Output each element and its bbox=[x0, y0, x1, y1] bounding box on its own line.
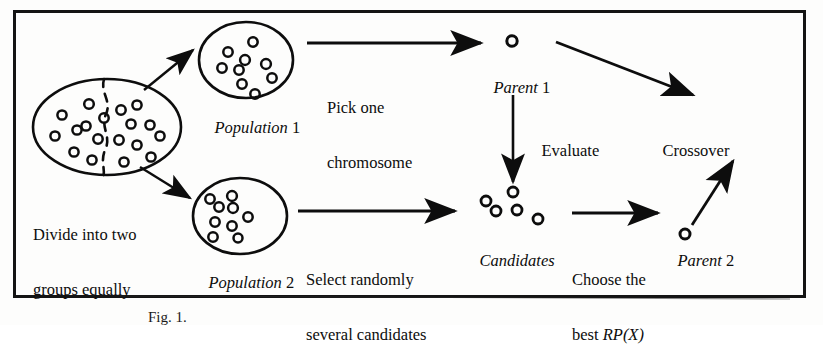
label-population-2: Population 2 bbox=[192, 256, 294, 311]
population-2-label-italic: Population bbox=[209, 273, 282, 292]
parent-1-chromosome bbox=[507, 36, 517, 46]
label-crossover: Crossover bbox=[646, 124, 729, 179]
label-divide-into-two-groups: Divide into two groups equally bbox=[33, 189, 137, 337]
label-parent-1: Parent 1 bbox=[477, 61, 550, 116]
crossover-text: Crossover bbox=[663, 141, 730, 160]
label-parent-2: Parent 2 bbox=[661, 234, 734, 289]
pick-one-chromosome-line1: Pick one bbox=[327, 99, 412, 117]
label-candidates: Candidates bbox=[463, 234, 555, 289]
label-population-1: Population 1 bbox=[198, 101, 300, 156]
divide-groups-line1: Divide into two bbox=[33, 226, 137, 244]
select-randomly-line2: several candidates bbox=[306, 326, 426, 344]
pick-one-chromosome-line2: chromosome bbox=[327, 154, 412, 172]
label-choose-the-best: Choose the best RP(X) bbox=[572, 234, 646, 348]
choose-best-line1: Choose the bbox=[572, 271, 646, 289]
candidates-cluster bbox=[481, 187, 543, 224]
population-2-label-number: 2 bbox=[282, 273, 294, 292]
divide-groups-line2: groups equally bbox=[33, 281, 137, 299]
choose-best-line2-plain: best bbox=[572, 325, 603, 344]
label-select-randomly: Select randomly several candidates bbox=[306, 234, 426, 348]
arrow-parent1-to-crossover bbox=[556, 42, 693, 95]
population-2-ellipse bbox=[193, 178, 287, 254]
select-randomly-line1: Select randomly bbox=[306, 271, 426, 289]
evaluate-text: Evaluate bbox=[542, 141, 600, 160]
parent-2-label-number: 2 bbox=[722, 251, 734, 270]
arrow-to-population-1 bbox=[144, 50, 193, 90]
label-evaluate: Evaluate bbox=[525, 124, 599, 179]
population-1-label-number: 1 bbox=[288, 118, 300, 137]
parent-2-label-italic: Parent bbox=[678, 251, 722, 270]
label-pick-one-chromosome: Pick one chromosome bbox=[327, 62, 412, 210]
arrow-to-population-2 bbox=[140, 167, 190, 198]
population-1-ellipse bbox=[199, 22, 293, 99]
choose-best-line2: best RP(X) bbox=[572, 326, 646, 344]
parent-1-label-italic: Parent bbox=[494, 78, 538, 97]
figure-caption: Fig. 1. bbox=[148, 309, 187, 326]
choose-best-rp-x: RP(X) bbox=[603, 325, 644, 344]
population-1-label-italic: Population bbox=[215, 118, 288, 137]
main-population-ellipse bbox=[33, 79, 181, 177]
parent-1-label-number: 1 bbox=[538, 78, 550, 97]
figure-caption-text: Fig. 1. bbox=[148, 309, 187, 325]
candidates-label-italic: Candidates bbox=[480, 251, 555, 270]
